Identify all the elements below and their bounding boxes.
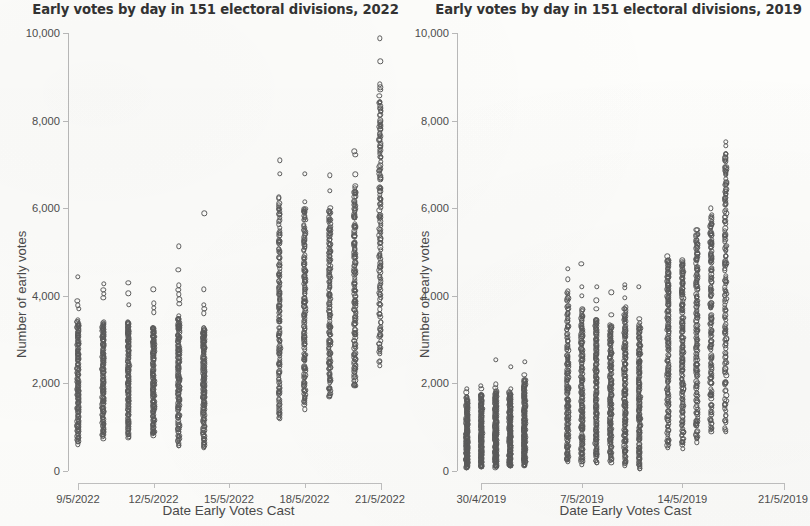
data-point bbox=[565, 324, 570, 329]
data-point bbox=[680, 373, 685, 378]
data-point bbox=[303, 217, 308, 222]
x-axis-bracket bbox=[78, 483, 382, 490]
data-point bbox=[353, 351, 358, 356]
data-point-outlier bbox=[151, 287, 156, 292]
data-point-outlier bbox=[302, 171, 307, 176]
data-point-outlier bbox=[202, 211, 207, 216]
y-axis-line bbox=[457, 33, 458, 471]
data-point bbox=[378, 108, 383, 113]
data-point-outlier bbox=[277, 158, 282, 163]
data-point-outlier bbox=[579, 284, 584, 289]
data-point-outlier bbox=[327, 173, 332, 178]
y-axis-tick-label: 4,000 bbox=[6, 290, 60, 302]
data-point-outlier bbox=[176, 267, 181, 272]
data-point bbox=[680, 350, 685, 355]
data-point-outlier bbox=[176, 244, 181, 249]
data-point bbox=[566, 443, 571, 448]
data-point bbox=[723, 413, 728, 418]
data-point bbox=[377, 297, 382, 302]
x-axis-tick-label: 21/5/2019 bbox=[758, 493, 808, 505]
data-point bbox=[724, 398, 729, 403]
x-axis-tick-label: 9/5/2022 bbox=[56, 493, 100, 505]
data-point-outlier bbox=[608, 290, 613, 295]
data-point-outlier bbox=[353, 172, 358, 177]
y-axis-tick-label: 2,000 bbox=[6, 377, 60, 389]
data-point bbox=[353, 183, 358, 188]
data-point-outlier bbox=[594, 306, 599, 311]
y-axis-tick bbox=[63, 296, 68, 297]
x-axis-tick-label: 21/5/2022 bbox=[355, 493, 405, 505]
data-point-outlier bbox=[493, 357, 498, 362]
y-axis-tick-label: 0 bbox=[395, 465, 449, 477]
data-point bbox=[623, 367, 628, 372]
data-point bbox=[723, 341, 728, 346]
data-point-outlier bbox=[708, 205, 713, 210]
y-axis-tick bbox=[63, 121, 68, 122]
y-axis-tick-label: 10,000 bbox=[395, 27, 449, 39]
y-axis-tick bbox=[452, 296, 457, 297]
data-point bbox=[637, 320, 642, 325]
data-point-outlier bbox=[327, 188, 332, 193]
x-axis-tick-label: 15/5/2022 bbox=[204, 493, 254, 505]
data-point bbox=[680, 315, 685, 320]
y-axis-tick bbox=[452, 121, 457, 122]
data-point-outlier bbox=[202, 306, 207, 311]
data-point bbox=[277, 319, 282, 324]
data-point-outlier bbox=[723, 143, 728, 148]
data-point-outlier bbox=[608, 312, 613, 317]
data-point bbox=[724, 393, 729, 398]
y-axis-tick-label: 4,000 bbox=[395, 290, 449, 302]
data-point-outlier bbox=[377, 36, 382, 41]
data-point-outlier bbox=[101, 281, 106, 286]
x-axis-tick bbox=[582, 483, 583, 488]
y-axis-tick bbox=[63, 383, 68, 384]
y-axis-tick-label: 6,000 bbox=[6, 202, 60, 214]
x-axis-tick bbox=[154, 483, 155, 488]
data-point bbox=[695, 434, 700, 439]
data-point-outlier bbox=[636, 284, 641, 289]
data-point-outlier bbox=[151, 310, 156, 315]
x-axis-label: Date Early Votes Cast bbox=[449, 503, 802, 518]
data-point-outlier bbox=[176, 283, 181, 288]
data-point bbox=[680, 335, 685, 340]
data-point-outlier bbox=[579, 293, 584, 298]
data-point bbox=[594, 361, 599, 366]
data-point-outlier bbox=[594, 297, 599, 302]
y-axis-tick-label: 0 bbox=[6, 465, 60, 477]
data-point-outlier bbox=[75, 274, 80, 279]
y-axis-tick bbox=[63, 33, 68, 34]
data-point-outlier bbox=[622, 295, 627, 300]
x-axis-tick bbox=[682, 483, 683, 488]
y-axis-tick-label: 10,000 bbox=[6, 27, 60, 39]
y-axis-tick bbox=[452, 383, 457, 384]
y-axis-line bbox=[68, 33, 69, 471]
data-point bbox=[666, 353, 671, 358]
x-axis-tick-label: 14/5/2019 bbox=[658, 493, 708, 505]
data-point bbox=[723, 253, 728, 258]
data-point-outlier bbox=[522, 359, 527, 364]
data-point-outlier bbox=[565, 266, 570, 271]
chart-title: Early votes by day in 151 electoral divi… bbox=[405, 2, 810, 17]
data-point-outlier bbox=[201, 287, 206, 292]
data-point bbox=[276, 195, 281, 200]
figure-sheet: Early votes by day in 151 electoral divi… bbox=[0, 0, 810, 526]
data-point bbox=[277, 402, 282, 407]
data-point-outlier bbox=[126, 290, 131, 295]
data-point-outlier bbox=[277, 171, 282, 176]
data-point bbox=[695, 373, 700, 378]
data-point bbox=[378, 332, 383, 337]
data-point-outlier bbox=[508, 364, 513, 369]
x-axis-tick bbox=[229, 483, 230, 488]
x-axis-tick-label: 18/5/2022 bbox=[280, 493, 330, 505]
x-axis-tick-label: 7/5/2019 bbox=[560, 493, 604, 505]
data-point-outlier bbox=[508, 386, 513, 391]
data-point bbox=[277, 304, 282, 309]
data-point bbox=[680, 446, 685, 451]
data-point bbox=[328, 210, 333, 215]
data-point bbox=[302, 407, 307, 412]
data-point-outlier bbox=[201, 311, 206, 316]
data-point bbox=[580, 307, 585, 312]
data-point-outlier bbox=[565, 276, 570, 281]
data-point bbox=[709, 222, 714, 227]
data-point-outlier bbox=[579, 261, 584, 266]
